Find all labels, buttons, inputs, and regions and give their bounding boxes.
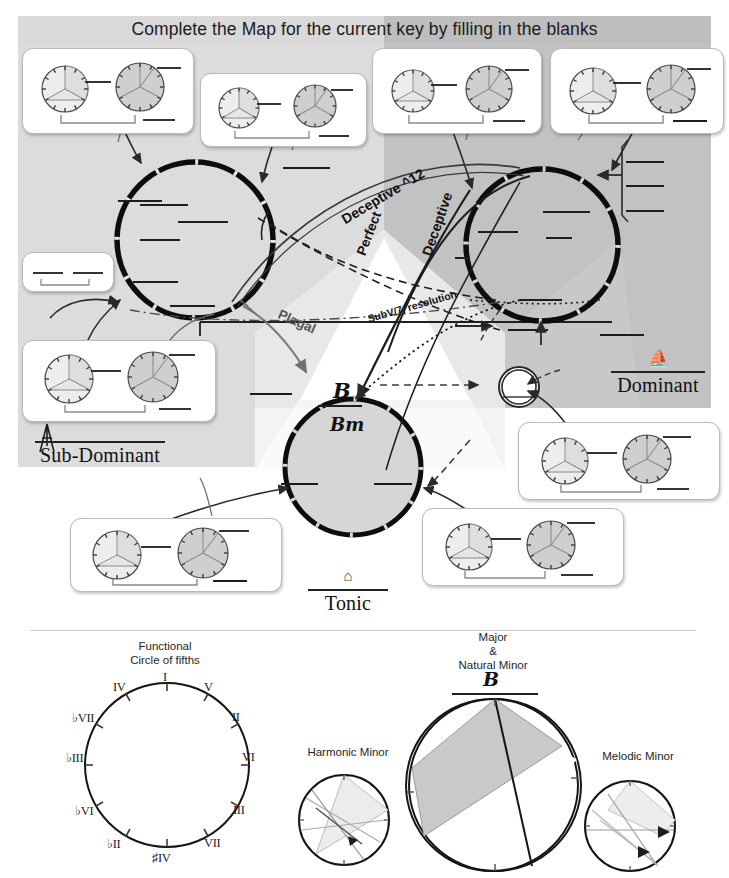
function-label-dominant: ⛵ Dominant (608, 350, 708, 396)
cof-title-line1: Functional (95, 640, 235, 654)
worksheet-page: Complete the Map for the current key by … (0, 0, 729, 878)
card-blank-graphics (23, 253, 113, 291)
sub-dominant-label: Sub-Dominant (34, 444, 166, 466)
major-natural-minor-graphic (402, 668, 592, 873)
function-label-tonic: ⌂ Tonic (306, 568, 390, 614)
page-title: Complete the Map for the current key by … (18, 16, 711, 43)
card-pie-graphics (23, 49, 193, 133)
mnm-line2: & (428, 644, 558, 658)
harmonic-minor-title: Harmonic Minor (288, 746, 408, 760)
secondary-circle-graphic (499, 367, 539, 407)
card-pie-graphics (519, 423, 719, 499)
card-pie-graphics (423, 509, 623, 585)
circle-of-fifths-graphic (72, 670, 262, 870)
degree-V: V (204, 680, 213, 695)
melodic-minor-title: Melodic Minor (578, 750, 698, 764)
degree-sharp-IV: ♯IV (152, 851, 171, 866)
function-label-sub-dominant: Sub-Dominant (34, 440, 166, 466)
harmonic-minor-graphic (292, 768, 396, 872)
tonic-label: Tonic (306, 592, 390, 614)
degree-flat-III: ♭III (66, 750, 83, 766)
degree-III: III (233, 803, 245, 818)
degree-IV: IV (113, 680, 126, 695)
degree-flat-VI: ♭VI (75, 803, 93, 819)
card-bottom-mid[interactable] (422, 508, 624, 586)
degree-II: II (232, 710, 240, 725)
dominant-label: Dominant (608, 374, 708, 396)
degree-flat-II: ♭II (107, 836, 120, 852)
house-icon: ⌂ (306, 568, 390, 588)
degree-VII: VII (204, 836, 220, 851)
card-top-3[interactable] (372, 48, 542, 134)
harmonic-map: Complete the Map for the current key by … (0, 0, 729, 628)
card-bottom-left[interactable] (70, 518, 282, 592)
degree-flat-VII: ♭VII (72, 710, 94, 726)
card-top-4[interactable] (550, 48, 724, 134)
card-right-low[interactable] (518, 422, 720, 500)
card-small-left[interactable] (22, 252, 114, 292)
handwritten-tonic-key: B (333, 378, 351, 403)
card-top-2[interactable] (200, 73, 367, 147)
mnm-line1: Major (428, 630, 558, 644)
card-pie-graphics (71, 519, 281, 591)
circle-of-fifths-title: Functional Circle of fifths (95, 640, 235, 667)
major-natural-minor-title: Major & Natural Minor (428, 630, 558, 672)
degree-I: I (163, 670, 167, 685)
card-pie-graphics (201, 74, 366, 146)
cof-title-line2: Circle of fifths (95, 654, 235, 668)
handwritten-tonic-minor: Bm (330, 414, 364, 435)
card-left-low[interactable] (22, 340, 216, 422)
card-pie-graphics (551, 49, 723, 133)
card-pie-graphics (23, 341, 215, 421)
legend-area: Functional Circle of fifths I V II (0, 628, 729, 878)
card-pie-graphics (373, 49, 541, 133)
handwritten-legend-key: B (483, 668, 499, 690)
degree-VI: VI (242, 750, 255, 765)
sailboat-icon: ⛵ (608, 350, 708, 370)
card-top-1[interactable] (22, 48, 194, 134)
melodic-minor-graphic (578, 774, 682, 878)
